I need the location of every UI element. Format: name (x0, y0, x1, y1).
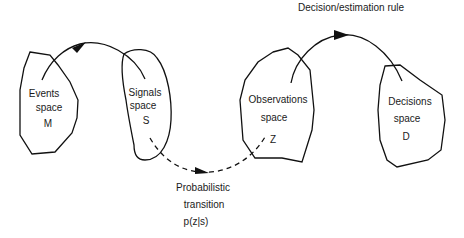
events-space-word: space (36, 102, 63, 114)
decisions-space-symbol: D (402, 131, 409, 143)
transition-formula: p(z|s) (184, 216, 209, 228)
arrow-observations-to-decisions (291, 35, 402, 83)
events-space-name: Events (29, 88, 60, 100)
observations-space-symbol: Z (270, 134, 276, 146)
signals-space-symbol: S (143, 115, 150, 127)
diagram-title: Decision/estimation rule (298, 2, 404, 14)
transition-label-line2: transition (184, 199, 225, 211)
observations-space-name: Observations (249, 94, 308, 106)
signals-space-word: space (130, 100, 157, 112)
decisions-space-name: Decisions (388, 96, 431, 108)
arrow-signals-to-observations (150, 137, 265, 172)
arrowhead-observations-to-decisions (334, 30, 349, 40)
observations-space-word: space (261, 112, 288, 124)
events-space-symbol: M (44, 118, 52, 130)
decisions-space-word: space (394, 113, 421, 125)
signals-space-name: Signals (129, 87, 162, 99)
arrow-events-to-signals (42, 43, 145, 80)
arrowhead-signals-to-observations (195, 167, 209, 174)
transition-label-line1: Probabilistic (176, 182, 230, 194)
